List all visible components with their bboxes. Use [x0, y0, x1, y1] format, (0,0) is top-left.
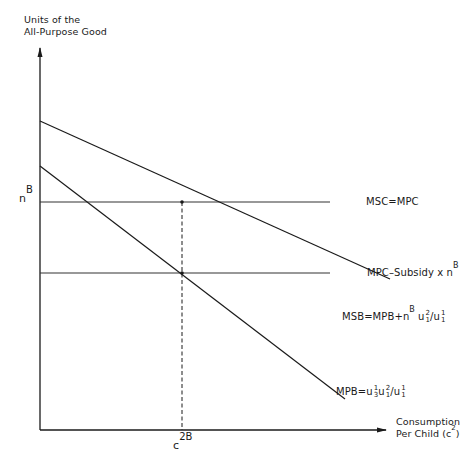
mpb-curve	[40, 166, 345, 399]
mpc-subsidy-label-text: MPC–Subsidy x n	[367, 267, 453, 278]
mpb-u-c: u	[394, 386, 400, 397]
x-tick-label-c2b: c2B	[173, 440, 193, 452]
mpb-label-text: MPB=	[336, 386, 366, 397]
mpb-u-c-sub: 1	[401, 392, 406, 399]
mpb-label: MPB=u13u21/u11	[336, 385, 406, 399]
msb-label-text: MSB=MPB+n	[342, 311, 409, 322]
y-axis-label-line2: All-Purpose Good	[24, 26, 107, 38]
y-axis-label-line1: Units of the	[24, 14, 107, 26]
equilibrium-point-subsidy	[180, 271, 184, 275]
x-axis-label: Consumption Per Child (c2)	[396, 416, 460, 440]
y-tick-sup: B	[26, 184, 33, 195]
x-tick-sup: 2B	[179, 431, 192, 442]
msb-label: MSB=MPB+nBu21/u11	[342, 310, 445, 324]
msb-u-num: u	[418, 311, 424, 322]
mpb-u-c-indices: 11	[401, 385, 406, 399]
x-axis-label-sup: 2	[451, 424, 456, 432]
y-tick-label-nb: nB	[19, 193, 33, 205]
equilibrium-point-msc	[180, 200, 184, 204]
diagram-canvas	[0, 0, 476, 470]
msb-u-den-indices: 11	[441, 310, 446, 324]
msb-u-den: u	[433, 311, 439, 322]
y-axis-label: Units of the All-Purpose Good	[24, 14, 107, 38]
msb-curve	[40, 121, 390, 279]
msb-label-sup: B	[409, 305, 415, 314]
msc-mpc-label: MSC=MPC	[366, 196, 419, 208]
x-axis-label-text: Per Child (c	[396, 428, 451, 439]
x-axis-label-close: )	[456, 428, 460, 439]
mpb-u-a: u	[366, 386, 372, 397]
mpb-u-b: u	[378, 386, 384, 397]
mpc-subsidy-label-sup: B	[453, 261, 459, 270]
msb-u-den-sub: 1	[441, 317, 446, 324]
x-axis-label-line2: Per Child (c2)	[396, 428, 460, 440]
mpc-subsidy-label: MPC–Subsidy x nB	[367, 267, 459, 279]
